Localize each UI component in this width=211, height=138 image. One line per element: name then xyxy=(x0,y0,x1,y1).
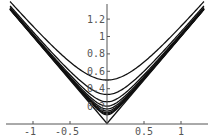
x-ticks: -1-0.50.51 xyxy=(24,121,184,137)
x-tick-label: 0.5 xyxy=(135,126,153,137)
y-tick-label: 1.2 xyxy=(87,14,105,25)
y-axis: 0.20.40.60.811.2 xyxy=(87,4,110,124)
chart: -1-0.50.51 0.20.40.60.811.2 xyxy=(0,0,211,138)
x-tick-label: 1 xyxy=(178,126,184,137)
y-tick-label: 0.6 xyxy=(87,66,105,77)
x-tick-label: -1 xyxy=(24,126,36,137)
y-tick-label: 0.8 xyxy=(87,48,105,59)
y-tick-label: 0.4 xyxy=(87,83,105,94)
x-tick-label: -0.5 xyxy=(55,126,79,137)
y-tick-label: 0.2 xyxy=(87,101,105,112)
y-tick-label: 1 xyxy=(99,31,105,42)
